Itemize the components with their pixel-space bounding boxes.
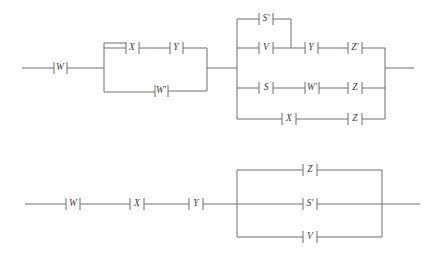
label-x-bottom: X — [133, 198, 141, 208]
switching-circuit-diagram: W X Y W' S' V Y Z' S W' Z X Z — [0, 0, 434, 258]
label-s-top: S — [264, 82, 269, 92]
label-z-block2b: Z — [352, 113, 358, 123]
label-sprime-top: S' — [263, 13, 271, 23]
label-w-top: W — [56, 62, 65, 72]
label-v-top: V — [263, 42, 270, 52]
label-v-bottom: V — [307, 231, 314, 241]
diagram-canvas: W X Y W' S' V Y Z' S W' Z X Z — [0, 0, 434, 258]
label-z-block2: Z — [352, 82, 358, 92]
label-y-block2: Y — [308, 42, 315, 52]
label-sprime-bottom: S' — [307, 198, 315, 208]
label-w-bottom: W — [69, 198, 78, 208]
bottom-circuit: W X Y Z S' V — [25, 164, 420, 243]
label-z-bottom: Z — [307, 164, 313, 174]
top-circuit: W X Y W' S' V Y Z' S W' Z X Z — [22, 13, 414, 125]
label-y-bottom: Y — [193, 198, 200, 208]
label-zprime-top: Z' — [351, 42, 359, 52]
label-x-block1: X — [128, 42, 136, 52]
label-wprime-block2: W' — [307, 82, 318, 92]
label-y-block1: Y — [173, 42, 180, 52]
label-x-block2: X — [285, 113, 293, 123]
label-wprime-block1: W' — [156, 85, 167, 95]
